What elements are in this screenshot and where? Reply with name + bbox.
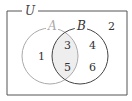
element-a-only: 1 bbox=[38, 50, 45, 63]
venn-diagram: U A B 2 1 3 5 4 6 bbox=[0, 0, 132, 101]
set-a-label: A bbox=[47, 19, 57, 33]
element-b-only: 6 bbox=[89, 61, 96, 74]
set-b-label: B bbox=[76, 19, 86, 33]
universe-label: U bbox=[25, 4, 36, 18]
element-b-only: 4 bbox=[89, 39, 96, 52]
element-intersection: 5 bbox=[64, 61, 71, 74]
element-intersection: 3 bbox=[64, 39, 71, 52]
element-outside: 2 bbox=[108, 20, 115, 33]
